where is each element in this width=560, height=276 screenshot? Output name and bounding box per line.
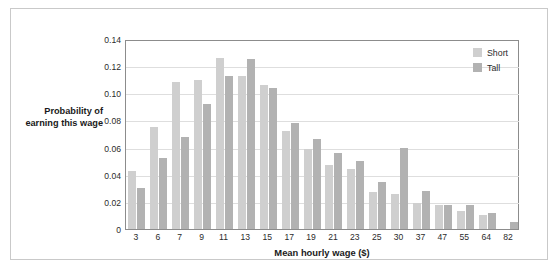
bar-group[interactable]: [391, 40, 408, 229]
bar-tall[interactable]: [203, 104, 211, 229]
bar-tall[interactable]: [422, 191, 430, 229]
y-tick-label: 0.12: [91, 62, 121, 72]
bar-tall[interactable]: [247, 59, 255, 229]
x-axis-tick-labels: 36791113151719212325303747556482: [125, 232, 519, 246]
bar-tall[interactable]: [510, 222, 518, 229]
bar-tall[interactable]: [291, 123, 299, 229]
bar-short[interactable]: [457, 211, 465, 229]
bar-short[interactable]: [325, 165, 333, 229]
bar-tall[interactable]: [313, 139, 321, 229]
bar-group[interactable]: [128, 40, 145, 229]
bar-tall[interactable]: [444, 205, 452, 229]
bar-short[interactable]: [128, 171, 136, 229]
bar-short[interactable]: [304, 149, 312, 229]
bar-group[interactable]: [282, 40, 299, 229]
bar-group[interactable]: [194, 40, 211, 229]
y-tick-label: 0.10: [91, 89, 121, 99]
bar-group[interactable]: [150, 40, 167, 229]
bar-tall[interactable]: [466, 205, 474, 229]
bar-tall[interactable]: [378, 182, 386, 230]
bar-group[interactable]: [457, 40, 474, 229]
bar-tall[interactable]: [159, 158, 167, 229]
bar-short[interactable]: [391, 194, 399, 229]
bar-short[interactable]: [347, 169, 355, 229]
bar-series-layer: [126, 40, 519, 229]
bar-group[interactable]: [172, 40, 189, 229]
bar-tall[interactable]: [181, 137, 189, 229]
bar-tall[interactable]: [356, 161, 364, 229]
y-tick-label: 0.06: [91, 144, 121, 154]
y-tick-label: 0.02: [91, 198, 121, 208]
bar-group[interactable]: [325, 40, 342, 229]
bar-group[interactable]: [304, 40, 321, 229]
bar-group[interactable]: [413, 40, 430, 229]
bar-group[interactable]: [369, 40, 386, 229]
bar-short[interactable]: [172, 82, 180, 229]
legend-label: Tall: [487, 63, 500, 73]
legend-item-tall[interactable]: Tall: [473, 60, 508, 75]
bar-short[interactable]: [282, 131, 290, 229]
bar-short[interactable]: [369, 192, 377, 229]
legend-label: Short: [487, 48, 508, 58]
bar-short[interactable]: [238, 76, 246, 229]
bar-tall[interactable]: [334, 153, 342, 229]
y-tick-label: 0.14: [91, 35, 121, 45]
bar-group[interactable]: [347, 40, 364, 229]
legend-swatch-icon: [473, 48, 482, 57]
bar-tall[interactable]: [488, 213, 496, 229]
bar-short[interactable]: [150, 127, 158, 229]
bar-short[interactable]: [260, 85, 268, 229]
x-tick-label: 82: [495, 232, 521, 242]
plot-area: [125, 40, 519, 230]
y-tick-label: 0.04: [91, 171, 121, 181]
chart-legend: ShortTall: [473, 45, 508, 75]
bar-short[interactable]: [479, 215, 487, 229]
bar-group[interactable]: [216, 40, 233, 229]
bar-tall[interactable]: [225, 76, 233, 229]
bar-short[interactable]: [194, 80, 202, 229]
bar-tall[interactable]: [400, 148, 408, 229]
bar-tall[interactable]: [137, 188, 145, 229]
y-tick-label: 0: [91, 225, 121, 235]
bar-group[interactable]: [260, 40, 277, 229]
x-axis-title: Mean hourly wage ($): [125, 247, 519, 258]
y-axis-tick-labels: 0.140.120.100.080.060.040.020: [89, 40, 121, 230]
bar-tall[interactable]: [269, 88, 277, 229]
bar-short[interactable]: [435, 205, 443, 229]
legend-item-short[interactable]: Short: [473, 45, 508, 60]
legend-swatch-icon: [473, 63, 482, 72]
bar-short[interactable]: [413, 203, 421, 229]
bar-group[interactable]: [238, 40, 255, 229]
y-tick-label: 0.08: [91, 116, 121, 126]
bar-short[interactable]: [216, 58, 224, 229]
bar-group[interactable]: [435, 40, 452, 229]
chart-figure-frame: Probability of earning this wage 0.140.1…: [10, 8, 548, 260]
